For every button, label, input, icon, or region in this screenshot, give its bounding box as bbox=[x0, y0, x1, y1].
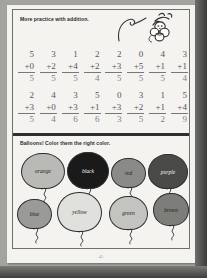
problem-addend-bottom: +2 bbox=[40, 61, 57, 74]
problem-addend-bottom: +3 bbox=[105, 61, 122, 74]
problem-addend-top: 0 bbox=[105, 90, 122, 102]
instruction-balloons: Balloons! Color them the right color. bbox=[20, 140, 110, 146]
problem-answer[interactable]: 3 bbox=[105, 114, 122, 126]
problem-addend-bottom: +1 bbox=[84, 102, 101, 115]
problem-addend-bottom: +2 bbox=[127, 102, 144, 115]
problem-answer[interactable]: 6 bbox=[84, 114, 101, 126]
problem-addend-bottom: +0 bbox=[18, 61, 35, 74]
balloon-orange[interactable]: orange bbox=[21, 153, 65, 189]
addition-problem: 3+25 bbox=[127, 90, 144, 126]
problem-addend-bottom: +3 bbox=[18, 102, 35, 115]
section-divider bbox=[13, 133, 189, 136]
problem-answer[interactable]: 5 bbox=[105, 73, 122, 85]
addition-problem: 0+55 bbox=[127, 49, 144, 85]
balloon-color-label: yellow bbox=[72, 209, 87, 215]
balloon-color-label: black bbox=[82, 168, 94, 174]
instruction-addition: More practice with addition. bbox=[20, 16, 89, 22]
balloon-string bbox=[76, 231, 90, 247]
balloon-brown[interactable]: brown bbox=[153, 193, 189, 226]
balloon-row-top: orangeblackredpurple bbox=[17, 151, 189, 191]
balloon-color-label: red bbox=[125, 170, 132, 176]
addition-problem: 2+35 bbox=[105, 49, 122, 85]
problem-addend-top: 1 bbox=[149, 90, 166, 102]
balloon-blue[interactable]: blue bbox=[17, 199, 52, 229]
problem-addend-top: 3 bbox=[127, 90, 144, 102]
problem-addend-top: 4 bbox=[40, 90, 57, 102]
addition-row-1: 5+053+251+452+242+350+554+153+14 bbox=[18, 49, 188, 85]
problem-addend-top: 0 bbox=[127, 49, 144, 61]
addition-problem: 5+16 bbox=[84, 90, 101, 126]
problem-addend-bottom: +1 bbox=[149, 102, 166, 115]
problem-answer[interactable]: 5 bbox=[149, 73, 166, 85]
problem-addend-top: 5 bbox=[84, 90, 101, 102]
addition-problem: 3+36 bbox=[62, 90, 79, 126]
problem-addend-bottom: +2 bbox=[84, 61, 101, 74]
scan-gutter-right bbox=[195, 0, 207, 278]
addition-problem: 3+25 bbox=[40, 49, 57, 85]
problem-addend-bottom: +5 bbox=[127, 61, 144, 74]
problem-addend-top: 1 bbox=[62, 49, 79, 61]
problem-addend-top: 4 bbox=[149, 49, 166, 61]
addition-problem: 2+24 bbox=[84, 49, 101, 85]
balloon-red[interactable]: red bbox=[111, 158, 146, 188]
problem-addend-bottom: +0 bbox=[40, 102, 57, 115]
problem-addend-top: 3 bbox=[40, 49, 57, 61]
problem-addend-bottom: +4 bbox=[62, 61, 79, 74]
problem-addend-bottom: +3 bbox=[62, 102, 79, 115]
problem-answer[interactable]: 4 bbox=[84, 73, 101, 85]
problem-answer[interactable]: 5 bbox=[127, 73, 144, 85]
problem-answer[interactable]: 5 bbox=[40, 73, 57, 85]
addition-problem: 1+45 bbox=[62, 49, 79, 85]
problem-answer[interactable]: 5 bbox=[18, 114, 35, 126]
balloon-string bbox=[125, 229, 139, 245]
problem-addend-top: 2 bbox=[84, 49, 101, 61]
problem-addend-top: 2 bbox=[105, 49, 122, 61]
problem-addend-top: 5 bbox=[171, 90, 188, 102]
addition-problem: 1+12 bbox=[149, 90, 166, 126]
problem-addend-top: 5 bbox=[18, 49, 35, 61]
balloon-black[interactable]: black bbox=[67, 152, 109, 189]
balloon-purple[interactable]: purple bbox=[148, 154, 188, 189]
balloon-color-label: blue bbox=[30, 211, 40, 217]
problem-addend-top: 3 bbox=[62, 90, 79, 102]
problem-addend-top: 2 bbox=[18, 90, 35, 102]
problem-addend-bottom: +3 bbox=[105, 102, 122, 115]
balloon-yellow[interactable]: yellow bbox=[57, 192, 102, 232]
problem-answer[interactable]: 6 bbox=[62, 114, 79, 126]
addition-problem: 0+33 bbox=[105, 90, 122, 126]
balloon-green[interactable]: green bbox=[109, 196, 148, 230]
problem-answer[interactable]: 5 bbox=[62, 73, 79, 85]
addition-problem: 3+14 bbox=[171, 49, 188, 85]
problem-addend-top: 3 bbox=[171, 49, 188, 61]
worksheet-page: More practice with addition. bbox=[7, 5, 195, 263]
balloon-color-label: green bbox=[122, 210, 135, 216]
problem-addend-bottom: +4 bbox=[171, 102, 188, 115]
problem-answer[interactable]: 4 bbox=[40, 114, 57, 126]
balloon-string bbox=[167, 225, 181, 241]
balloon-row-bottom: blueyellowgreenbrown bbox=[15, 189, 191, 235]
addition-problem: 4+15 bbox=[149, 49, 166, 85]
problem-answer[interactable]: 5 bbox=[127, 114, 144, 126]
addition-problem: 2+35 bbox=[18, 90, 35, 126]
balloon-color-label: purple bbox=[161, 169, 176, 175]
balloon-string bbox=[31, 228, 45, 244]
problem-addend-bottom: +1 bbox=[149, 61, 166, 74]
problem-answer[interactable]: 2 bbox=[149, 114, 166, 126]
balloon-color-label: brown bbox=[164, 207, 178, 213]
problem-answer[interactable]: 5 bbox=[18, 73, 35, 85]
addition-problem: 5+49 bbox=[171, 90, 188, 126]
problem-answer[interactable]: 4 bbox=[171, 73, 188, 85]
addition-problem: 4+04 bbox=[40, 90, 57, 126]
monkey-illustration bbox=[115, 11, 187, 45]
page-number: 45 bbox=[7, 254, 195, 259]
balloon-color-label: orange bbox=[35, 168, 51, 174]
problem-answer[interactable]: 9 bbox=[171, 114, 188, 126]
scan-gutter-bottom bbox=[0, 266, 207, 278]
addition-row-2: 2+354+043+365+160+333+251+125+49 bbox=[18, 90, 188, 126]
addition-problem: 5+05 bbox=[18, 49, 35, 85]
problem-addend-bottom: +1 bbox=[171, 61, 188, 74]
